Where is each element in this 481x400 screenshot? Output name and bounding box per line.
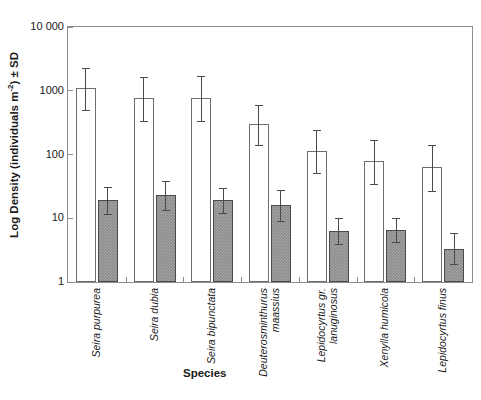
error-bar-cap-lower — [313, 173, 321, 174]
bar-group — [126, 27, 184, 282]
error-bar-cap-upper — [313, 130, 321, 131]
x-axis-tick-label-line: Xenylla humicola — [378, 288, 390, 367]
error-bar-cap-upper — [370, 140, 378, 141]
error-bar-cap-upper — [82, 68, 90, 69]
error-bar-cap-upper — [450, 233, 458, 234]
x-axis-tick-label: Deuterosminthurusmaassius — [240, 284, 298, 396]
bar-group — [68, 27, 126, 282]
x-axis-tick-mark — [299, 277, 300, 282]
error-bar-cap-upper — [197, 76, 205, 77]
bar-open — [134, 98, 154, 282]
x-axis-tick-mark — [241, 277, 242, 282]
error-bar-line — [85, 68, 86, 110]
error-bar-line — [280, 190, 281, 221]
error-bar-line — [374, 140, 375, 185]
error-bar-line — [396, 218, 397, 243]
error-bar-cap-lower — [370, 184, 378, 185]
x-axis-tick-label-line: Seira purpurea — [90, 288, 102, 357]
y-axis-tick-label: 1000 — [18, 84, 64, 96]
x-axis-tick-labels: Seira purpureaSeira dubiaSeira bipunctat… — [67, 284, 473, 400]
error-bar-cap-lower — [277, 221, 285, 222]
error-bar-cap-upper — [255, 105, 263, 106]
x-axis-tick-label-line: Lepidocyrtus finus — [436, 288, 448, 373]
bar-group — [414, 27, 472, 282]
error-bar-cap-upper — [277, 190, 285, 191]
bar-open — [249, 124, 269, 282]
error-bar-cap-upper — [392, 218, 400, 219]
error-bar-line — [107, 187, 108, 214]
x-axis-tick-mark — [414, 277, 415, 282]
chart-figure: Log Density (individuals m-2) ± SD 10 00… — [0, 0, 481, 400]
error-bar-line — [165, 181, 166, 210]
y-axis-tick-label: 1 — [18, 275, 64, 287]
bar-group — [241, 27, 299, 282]
error-bar-cap-upper — [335, 218, 343, 219]
error-bar-cap-lower — [450, 264, 458, 265]
error-bar-line — [432, 145, 433, 191]
bar-group — [357, 27, 415, 282]
error-bar-cap-lower — [335, 244, 343, 245]
error-bar-cap-lower — [104, 214, 112, 215]
error-bar-cap-lower — [428, 191, 436, 192]
error-bar-cap-lower — [82, 110, 90, 111]
error-bar-cap-upper — [162, 181, 170, 182]
error-bar-line — [223, 188, 224, 213]
x-axis-tick-label-line: Lepidocyrtus gr. — [315, 288, 327, 362]
error-bar-line — [143, 77, 144, 121]
bar-group — [183, 27, 241, 282]
x-axis-tick-mark — [183, 277, 184, 282]
error-bar-cap-upper — [104, 187, 112, 188]
bar-group — [299, 27, 357, 282]
x-axis-tick-mark — [357, 277, 358, 282]
x-axis-tick-label-line: Seira dubia — [148, 288, 160, 341]
y-axis-tick-labels: 10 0001000100101 — [16, 0, 64, 400]
error-bar-cap-upper — [140, 77, 148, 78]
x-axis-tick-label-line: Deuterosminthurus — [257, 288, 269, 377]
x-axis-tick-label-line: lanuginosus — [327, 288, 339, 362]
error-bar-cap-upper — [428, 145, 436, 146]
x-axis-tick-label: Seira bipunctata — [182, 284, 240, 396]
x-axis-tick-label-line: Seira bipunctata — [205, 288, 217, 364]
y-axis-tick-label: 10 000 — [18, 20, 64, 32]
error-bar-line — [316, 130, 317, 172]
x-axis-tick-label: Seira dubia — [125, 284, 183, 396]
y-axis-tick-label: 10 — [18, 211, 64, 223]
x-axis-tick-label: Xenylla humicola — [356, 284, 414, 396]
x-axis-tick-label: Lepidocyrtus finus — [413, 284, 471, 396]
error-bar-cap-upper — [219, 188, 227, 189]
bar-open — [76, 88, 96, 282]
error-bar-cap-lower — [219, 213, 227, 214]
error-bar-cap-lower — [392, 242, 400, 243]
x-axis-tick-mark — [126, 277, 127, 282]
x-axis-tick-label: Seira purpurea — [67, 284, 125, 396]
error-bar-cap-lower — [197, 121, 205, 122]
x-axis-title: Species — [183, 367, 226, 379]
plot-area — [67, 26, 473, 283]
error-bar-cap-lower — [140, 121, 148, 122]
error-bar-cap-lower — [162, 210, 170, 211]
error-bar-cap-lower — [255, 145, 263, 146]
error-bar-line — [258, 105, 259, 145]
error-bar-line — [338, 218, 339, 243]
error-bar-line — [201, 76, 202, 121]
error-bar-line — [454, 233, 455, 264]
x-axis-tick-label-line: maassius — [269, 288, 281, 377]
y-axis-title-exponent: -2 — [6, 85, 15, 92]
x-axis-tick-label: Lepidocyrtus gr.lanuginosus — [298, 284, 356, 396]
y-axis-tick-label: 100 — [18, 148, 64, 160]
bar-open — [191, 98, 211, 282]
